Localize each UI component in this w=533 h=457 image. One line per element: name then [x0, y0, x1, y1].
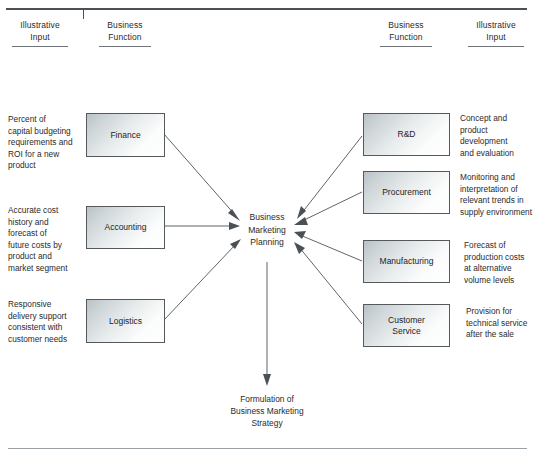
- text-line: interpretation of: [460, 184, 533, 196]
- text-line: capital budgeting: [8, 126, 82, 138]
- header-line-2: Input: [8, 32, 72, 44]
- header-line-1: Illustrative: [20, 20, 59, 30]
- arrow-accounting-to-center: [164, 222, 240, 230]
- center-line-1: Business: [232, 211, 302, 224]
- text-line: and evaluation: [460, 148, 533, 160]
- node-label: Logistics: [109, 316, 142, 327]
- text-line: relevant trends in: [460, 195, 533, 207]
- text-line: market segment: [8, 263, 82, 275]
- header-underline: [99, 46, 151, 47]
- arrow-manufacturing-to-center: [294, 231, 362, 261]
- top-rule: [6, 8, 527, 10]
- node-finance[interactable]: Finance: [86, 113, 165, 157]
- column-header-business-function-right: Business Function: [374, 20, 438, 47]
- text-line: Percent of: [8, 114, 82, 126]
- output-line-2: Business Marketing: [212, 405, 322, 417]
- text-line: technical service: [466, 318, 533, 330]
- text-line: requirements and: [8, 137, 82, 149]
- header-underline: [468, 46, 524, 47]
- right-input-text-4: Provision for technical service after th…: [466, 306, 533, 341]
- center-node-business-marketing-planning: Business Marketing Planning: [232, 211, 302, 249]
- header-underline: [380, 46, 432, 47]
- arrow-center-to-output: [263, 262, 271, 386]
- arrow-customer-service-to-center: [294, 242, 362, 324]
- node-rd[interactable]: R&D: [363, 113, 450, 156]
- text-line: delivery support: [8, 311, 82, 323]
- header-line-2: Input: [464, 32, 528, 44]
- column-header-business-function-left: Business Function: [93, 20, 157, 47]
- text-line: production costs: [464, 252, 533, 264]
- text-line: at alternative: [464, 263, 533, 275]
- center-line-2: Marketing: [232, 224, 302, 237]
- text-line: product and: [8, 251, 82, 263]
- output-line-1: Formulation of: [212, 393, 322, 405]
- header-line-2: Function: [374, 32, 438, 44]
- output-line-3: Strategy: [212, 417, 322, 429]
- bottom-rule: [8, 448, 527, 449]
- text-line: history and: [8, 217, 82, 229]
- text-line: Forecast of: [464, 240, 533, 252]
- node-label: Procurement: [382, 187, 431, 198]
- header-line-1: Business: [107, 20, 142, 30]
- left-input-text-3: Responsive delivery support consistent w…: [8, 299, 82, 345]
- output-label-formulation-of-strategy: Formulation of Business Marketing Strate…: [212, 393, 322, 429]
- text-line: product: [8, 160, 82, 172]
- text-line: future costs by: [8, 240, 82, 252]
- left-input-text-1: Percent of capital budgeting requirement…: [8, 114, 82, 172]
- node-label-line-1: Customer: [388, 315, 425, 326]
- right-input-text-3: Forecast of production costs at alternat…: [464, 240, 533, 286]
- header-line-1: Illustrative: [476, 20, 515, 30]
- node-label: Manufacturing: [380, 256, 434, 267]
- node-label-line-2: Service: [392, 326, 420, 337]
- node-logistics[interactable]: Logistics: [86, 299, 165, 343]
- arrow-rd-to-center: [297, 136, 362, 219]
- text-line: customer needs: [8, 334, 82, 346]
- text-line: Accurate cost: [8, 205, 82, 217]
- top-rule-tick: [83, 10, 84, 19]
- node-label: Finance: [110, 130, 140, 141]
- center-line-3: Planning: [232, 236, 302, 249]
- node-procurement[interactable]: Procurement: [363, 171, 450, 214]
- node-accounting[interactable]: Accounting: [86, 206, 165, 249]
- left-input-text-2: Accurate cost history and forecast of fu…: [8, 205, 82, 275]
- text-line: Responsive: [8, 299, 82, 311]
- text-line: forecast of: [8, 228, 82, 240]
- text-line: Monitoring and: [460, 172, 533, 184]
- text-line: consistent with: [8, 322, 82, 334]
- column-header-illustrative-input-right: Illustrative Input: [464, 20, 528, 47]
- header-line-2: Function: [93, 32, 157, 44]
- right-input-text-2: Monitoring and interpretation of relevan…: [460, 172, 533, 218]
- node-label: Accounting: [104, 222, 146, 233]
- text-line: ROI for a new: [8, 149, 82, 161]
- text-line: Provision for: [466, 306, 533, 318]
- column-header-illustrative-input-left: Illustrative Input: [8, 20, 72, 47]
- text-line: development: [460, 136, 533, 148]
- text-line: Concept and product: [460, 113, 533, 136]
- node-manufacturing[interactable]: Manufacturing: [363, 240, 450, 283]
- right-input-text-1: Concept and product development and eval…: [460, 113, 533, 159]
- arrow-logistics-to-center: [164, 239, 241, 320]
- text-line: supply environment: [460, 207, 533, 219]
- text-line: volume levels: [464, 275, 533, 287]
- arrow-finance-to-center: [164, 134, 240, 221]
- text-line: after the sale: [466, 329, 533, 341]
- node-label: R&D: [398, 129, 416, 140]
- arrow-procurement-to-center: [294, 192, 362, 225]
- header-line-1: Business: [388, 20, 423, 30]
- node-customer-service[interactable]: Customer Service: [363, 304, 450, 347]
- diagram-canvas: Illustrative Input Business Function Bus…: [0, 0, 533, 457]
- header-underline: [12, 46, 68, 47]
